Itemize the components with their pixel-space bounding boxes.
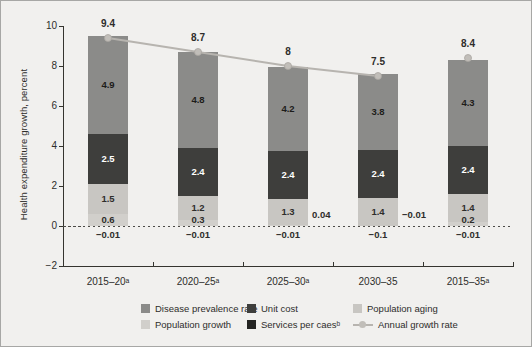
growth-marker bbox=[375, 73, 382, 80]
segment-value-label: 2.5 bbox=[88, 154, 128, 164]
growth-value-label: 8.7 bbox=[178, 33, 218, 43]
zero-line bbox=[63, 226, 513, 227]
segment-value-label: 1.4 bbox=[358, 207, 398, 217]
segment-value-label: 0.04 bbox=[312, 210, 331, 220]
segment-value-label: 1.5 bbox=[88, 194, 128, 204]
segment-value-label: 3.8 bbox=[358, 107, 398, 117]
segment-value-label: 0.2 bbox=[448, 215, 488, 225]
segment-value-label: −0.01 bbox=[402, 210, 426, 220]
segment-value-label: 4.9 bbox=[88, 80, 128, 90]
segment-value-label: 2.4 bbox=[178, 167, 218, 177]
segment-value-label: −0.01 bbox=[446, 230, 490, 240]
segment-value-label: −0.01 bbox=[176, 230, 220, 240]
segment-value-label: 2.4 bbox=[358, 169, 398, 179]
segment-value-label: 2.4 bbox=[448, 165, 488, 175]
segment-value-label: 2.4 bbox=[268, 170, 308, 180]
segment-value-label: 0.6 bbox=[88, 215, 128, 225]
segment-value-label: 1.2 bbox=[178, 203, 218, 213]
segment-value-label: −0.01 bbox=[86, 230, 130, 240]
growth-marker bbox=[285, 63, 292, 70]
segment-value-label: 1.4 bbox=[448, 203, 488, 213]
growth-marker bbox=[105, 35, 112, 42]
figure: Health expenditure growth, percent Disea… bbox=[0, 0, 532, 347]
growth-value-label: 9.4 bbox=[88, 19, 128, 29]
growth-value-label: 8 bbox=[268, 47, 308, 57]
growth-value-label: 7.5 bbox=[358, 57, 398, 67]
growth-marker bbox=[465, 55, 472, 62]
segment-value-label: −0.01 bbox=[266, 230, 310, 240]
segment-value-label: −0.1 bbox=[356, 230, 400, 240]
segment-value-label: 0.3 bbox=[178, 215, 218, 225]
segment-value-label: 1.3 bbox=[268, 207, 308, 217]
growth-marker bbox=[195, 49, 202, 56]
segment-value-label: 4.8 bbox=[178, 95, 218, 105]
segment-value-label: 4.2 bbox=[268, 104, 308, 114]
segment-value-label: 4.3 bbox=[448, 98, 488, 108]
growth-value-label: 8.4 bbox=[448, 39, 488, 49]
growth-line bbox=[108, 38, 378, 76]
